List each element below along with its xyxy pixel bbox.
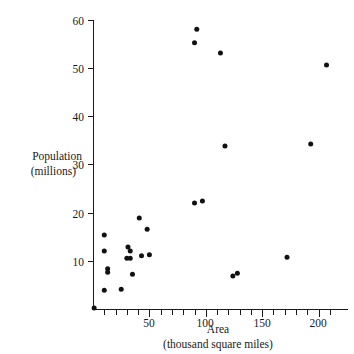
data-point	[230, 274, 235, 279]
data-point	[145, 227, 150, 232]
y-axis-title: Population	[32, 150, 82, 163]
y-tick-label-20: 20	[73, 208, 85, 220]
data-point	[119, 287, 124, 292]
data-point	[192, 40, 197, 45]
data-point	[102, 232, 107, 237]
data-point	[128, 248, 133, 253]
x-axis-subtitle: (thousand square miles)	[163, 338, 273, 351]
x-axis-ticks	[105, 310, 331, 317]
y-tick-label-40: 40	[73, 111, 85, 123]
y-axis-tick-labels: 60 50 40 30 20 10	[73, 15, 85, 268]
data-point	[124, 256, 129, 261]
data-point	[194, 27, 199, 32]
axes-group	[93, 20, 348, 310]
data-point	[137, 216, 142, 221]
x-axis-tick-labels: 50 100 150 200	[143, 317, 327, 329]
data-point	[200, 199, 205, 204]
x-tick-label-150: 150	[253, 317, 271, 329]
data-point	[105, 270, 110, 275]
data-point	[147, 252, 152, 257]
data-point	[218, 51, 223, 56]
data-point	[308, 141, 313, 146]
x-axis-title: Area	[207, 323, 229, 335]
x-tick-label-50: 50	[143, 317, 155, 329]
data-point	[102, 288, 107, 293]
data-point	[102, 248, 107, 253]
data-point	[139, 253, 144, 258]
data-point	[222, 143, 227, 148]
data-point	[130, 272, 135, 277]
data-point	[235, 271, 240, 276]
data-point	[324, 63, 329, 68]
y-tick-label-60: 60	[73, 15, 85, 27]
scatter-plot-figure: 60 50 40 30 20 10 50 100 150 200 Populat…	[0, 0, 354, 354]
plot-canvas: 60 50 40 30 20 10 50 100 150 200 Populat…	[0, 0, 354, 354]
x-tick-label-200: 200	[309, 317, 327, 329]
y-tick-label-10: 10	[73, 256, 85, 268]
y-tick-label-50: 50	[73, 63, 85, 75]
data-points-group	[92, 27, 329, 311]
y-axis-subtitle: (millions)	[31, 165, 77, 178]
data-point	[285, 255, 290, 260]
data-point	[92, 306, 97, 311]
data-point	[192, 201, 197, 206]
